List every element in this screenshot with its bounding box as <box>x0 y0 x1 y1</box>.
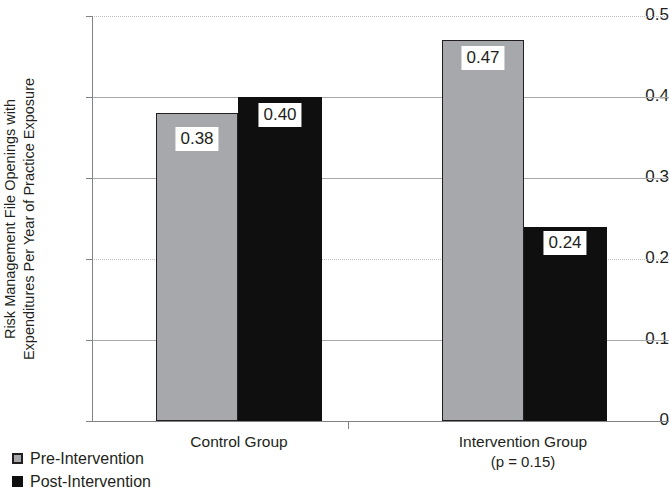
bar-chart: Risk Management File Openings with Expen… <box>0 0 669 500</box>
gridline-0.4 <box>92 97 669 98</box>
x-category-pvalue-intervention: (p = 0.15) <box>459 452 587 472</box>
data-label-control-post: 0.40 <box>258 103 301 127</box>
bar-intervention-pre[interactable] <box>442 40 524 421</box>
bar-control-pre[interactable] <box>156 113 238 421</box>
gray-square-icon <box>12 453 23 464</box>
gridline-0.5 <box>92 16 669 17</box>
bar-control-post[interactable] <box>238 97 322 421</box>
data-label-control-pre: 0.38 <box>175 127 218 151</box>
legend-label-post-intervention: Post-Intervention <box>30 473 151 491</box>
data-label-intervention-post: 0.24 <box>543 231 586 255</box>
x-category-label-control: Control Group <box>190 432 287 452</box>
y-axis-label: Risk Management File Openings with Expen… <box>0 16 40 421</box>
y-axis-line <box>92 16 93 421</box>
x-category-label-control-text: Control Group <box>190 433 287 450</box>
y-axis-label-line-2: Expenditures Per Year of Practice Exposu… <box>20 77 39 359</box>
x-category-label-intervention: Intervention Group (p = 0.15) <box>459 432 587 472</box>
x-tick-mark-category-separator <box>348 421 349 429</box>
chart-title-clipped: Risk Management File Openings with Expen… <box>0 0 669 12</box>
plot-area: 0.38 0.40 0.47 0.24 <box>92 16 669 421</box>
black-square-icon <box>12 476 23 487</box>
legend: Pre-Intervention Post-Intervention <box>12 447 151 493</box>
bar-intervention-post[interactable] <box>524 227 607 421</box>
y-axis-label-line-1: Risk Management File Openings with <box>1 77 20 359</box>
legend-item-pre-intervention[interactable]: Pre-Intervention <box>12 447 151 470</box>
legend-label-pre-intervention: Pre-Intervention <box>30 450 144 468</box>
data-label-intervention-pre: 0.47 <box>461 46 504 70</box>
x-axis-line <box>92 421 669 422</box>
x-category-label-intervention-text: Intervention Group <box>459 433 587 450</box>
legend-item-post-intervention[interactable]: Post-Intervention <box>12 470 151 493</box>
